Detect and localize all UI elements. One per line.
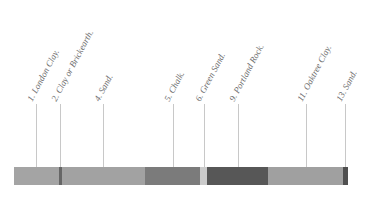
stratum-segment: [14, 167, 59, 185]
stratum-label: 11. Oaktree Clay.: [296, 44, 333, 103]
stratum-label: 5. Chalk.: [163, 70, 186, 103]
leader-line: [173, 104, 174, 167]
leader-line: [204, 104, 205, 167]
leader-line: [36, 104, 37, 167]
stratum-segment: [268, 167, 343, 185]
stratum-segment: [200, 167, 207, 185]
stratum-segment: [343, 167, 348, 185]
stratum-label: 4. Sand.: [93, 73, 115, 103]
leader-line: [306, 104, 307, 167]
stratum-label: 9. Portland Rock.: [228, 43, 266, 103]
stratum-segment: [145, 167, 200, 185]
leader-line: [345, 104, 346, 167]
leader-line: [103, 104, 104, 167]
stratum-segment: [207, 167, 268, 185]
stratum-label: 6. Green Sand.: [194, 51, 227, 103]
stratum-label: 2. Clay or Brickearth.: [50, 29, 95, 103]
stratum-label: 13. Sand.: [335, 69, 359, 103]
leader-line: [60, 104, 61, 167]
stratum-segment: [62, 167, 145, 185]
leader-line: [238, 104, 239, 167]
